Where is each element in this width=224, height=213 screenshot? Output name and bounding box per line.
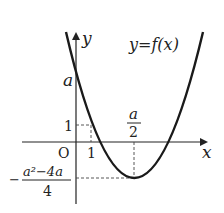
vertex-y-sign: −	[9, 172, 20, 187]
vertex-x-denominator: 2	[129, 124, 138, 140]
x-axis-label: x	[202, 142, 212, 162]
x-tick-label-1: 1	[87, 145, 96, 161]
curve-label: y=f(x)	[128, 35, 179, 54]
vertex-x-numerator: a	[129, 105, 138, 123]
y-axis-label: y	[81, 28, 92, 48]
vertex-y-denominator: 4	[43, 183, 52, 199]
vertex-y-numerator: a²−4a	[23, 164, 63, 179]
y-intercept-label: a	[63, 70, 73, 90]
y-tick-label-1: 1	[64, 118, 73, 134]
origin-label: O	[58, 145, 69, 161]
function-graph: y x O y=f(x) a 1 1 a 2 − a²−4a 4	[0, 0, 224, 213]
